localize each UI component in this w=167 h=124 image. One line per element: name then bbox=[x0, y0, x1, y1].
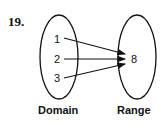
arrow-1-to-8 bbox=[64, 38, 125, 54]
domain-label: Domain bbox=[38, 104, 78, 116]
range-value-8: 8 bbox=[131, 53, 137, 65]
domain-value-2: 2 bbox=[54, 53, 60, 65]
domain-value-3: 3 bbox=[54, 72, 60, 84]
arrow-3-to-8 bbox=[64, 64, 125, 78]
domain-value-1: 1 bbox=[54, 33, 60, 45]
range-label: Range bbox=[117, 104, 151, 116]
